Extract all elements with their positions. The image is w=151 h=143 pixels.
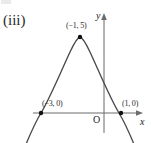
y-axis xyxy=(101,13,107,133)
point-root-right xyxy=(119,111,123,115)
left-root-point-label: (−3, 0) xyxy=(42,100,62,108)
x-axis-label: x xyxy=(140,117,144,127)
parabola-curve xyxy=(27,37,134,143)
item-marker: (iii) xyxy=(3,13,26,28)
parabola-figure: (iii) (−1, 5) (−3, 0) (1, 0) y x O xyxy=(0,0,151,143)
origin-label: O xyxy=(93,115,100,125)
y-axis-label: y xyxy=(96,11,100,21)
x-axis xyxy=(33,110,143,116)
point-root-left xyxy=(39,111,43,115)
point-vertex xyxy=(78,35,82,39)
vertex-point-label: (−1, 5) xyxy=(66,22,86,30)
right-root-point-label: (1, 0) xyxy=(122,100,138,108)
